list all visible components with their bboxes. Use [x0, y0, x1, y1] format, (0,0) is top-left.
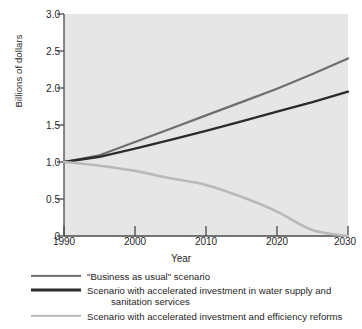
chart-figure: Billions of dollars 3.0 2.5 2.0 1.5 1.0 … — [0, 0, 362, 329]
plot-canvas — [0, 0, 362, 270]
legend-label-line-2: sanitation services — [87, 296, 362, 307]
legend-item-accelerated-investment: Scenario with accelerated investment in … — [0, 285, 362, 307]
plot-background — [64, 14, 348, 236]
x-axis-title: Year — [0, 253, 362, 264]
legend-label-accelerated-investment: Scenario with accelerated investment in … — [87, 285, 362, 307]
x-tick-label: 2030 — [322, 236, 362, 247]
x-tick-label: 2000 — [112, 236, 158, 247]
chart-plot-region: Billions of dollars 3.0 2.5 2.0 1.5 1.0 … — [0, 0, 362, 270]
legend-item-efficiency-reforms: Scenario with accelerated investment and… — [0, 311, 362, 322]
x-tick-label: 2020 — [254, 236, 300, 247]
legend-item-business-as-usual: "Business as usual" scenario — [0, 271, 362, 282]
legend-swatch-business-as-usual — [31, 271, 81, 281]
chart-legend: "Business as usual" scenario Scenario wi… — [0, 270, 362, 329]
legend-swatch-efficiency-reforms — [31, 311, 81, 321]
legend-label-business-as-usual: "Business as usual" scenario — [87, 271, 362, 282]
legend-label-line-1: Scenario with accelerated investment in … — [87, 285, 331, 296]
legend-swatch-accelerated-investment — [31, 285, 81, 295]
legend-label-efficiency-reforms: Scenario with accelerated investment and… — [87, 311, 362, 322]
x-tick-label: 2010 — [183, 236, 229, 247]
x-tick-label: 1990 — [41, 236, 87, 247]
y-axis-ticks — [57, 14, 64, 236]
